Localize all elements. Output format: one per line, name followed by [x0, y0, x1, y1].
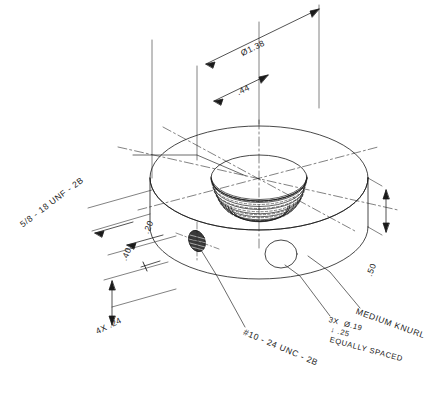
dim-line-diameter: [206, 9, 319, 64]
leader-center-thread: [133, 155, 246, 176]
leader-knurl: [308, 256, 360, 308]
leader-lines: [133, 155, 360, 327]
drawing-sheet: Ø1.38 .44 .20 .40 4X .24 .50 5/8 - 18 UN…: [0, 0, 444, 414]
leader-drilled-hole: [285, 265, 330, 316]
drilled-hole-front: [265, 240, 297, 268]
leader-side-thread: [201, 250, 245, 327]
center-lines: [118, 120, 398, 250]
